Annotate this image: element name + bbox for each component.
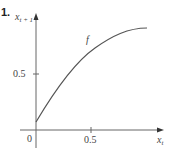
chart-canvas: xt + 1 0.5 0 0.5 xt f [0, 0, 174, 153]
origin-label: 0 [27, 133, 32, 144]
x-axis-label: xt [156, 134, 164, 147]
x-axis-arrow-icon [157, 128, 164, 133]
x-tick-label-half: 0.5 [84, 134, 97, 145]
y-axis-arrow-icon [34, 13, 39, 20]
y-axis-label: xt + 1 [14, 11, 33, 24]
curve-label-f: f [86, 34, 90, 45]
y-tick-label-half: 0.5 [13, 68, 26, 79]
curve-f [36, 28, 147, 122]
